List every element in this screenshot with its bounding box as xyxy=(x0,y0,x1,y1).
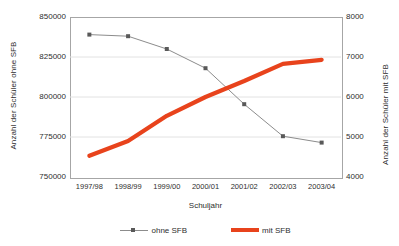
y-axis-left-ticks: 750000775000800000825000850000 xyxy=(16,0,66,246)
legend-item-mit-sfb: mit SFB xyxy=(231,226,290,235)
y-axis-right-tick-label: 5000 xyxy=(346,133,384,141)
x-axis-ticks: 1997/981998/991999/002000/012001/022002/… xyxy=(70,182,341,194)
y-axis-right-ticks: 40005000600070008000 xyxy=(346,0,386,246)
data-point-marker xyxy=(320,141,324,145)
y-axis-right-tick-label: 8000 xyxy=(346,13,384,21)
chart-container: Anzahl der Schüler ohne SFB Anzahl der S… xyxy=(0,0,399,246)
legend-line-icon-orange xyxy=(231,226,259,235)
y-axis-left-tick-label: 775000 xyxy=(20,133,66,141)
y-axis-left-tick-label: 800000 xyxy=(20,93,66,101)
x-axis-tick-label: 1999/00 xyxy=(153,182,180,191)
legend-item-ohne-sfb: ohne SFB xyxy=(120,226,187,235)
plot-svg xyxy=(70,17,341,177)
y-axis-left-tick-label: 850000 xyxy=(20,13,66,21)
legend-line-icon-gray xyxy=(120,226,148,235)
x-axis-tick-label: 2002/03 xyxy=(269,182,296,191)
y-axis-right-tick-label: 6000 xyxy=(346,93,384,101)
x-axis-title: Schuljahr xyxy=(70,201,341,210)
series-line-mit-sfb xyxy=(89,60,321,156)
x-axis-tick-label: 2003/04 xyxy=(308,182,335,191)
data-point-marker xyxy=(165,47,169,51)
y-axis-left-tick-label: 750000 xyxy=(20,173,66,181)
x-axis-tick-label: 1998/99 xyxy=(115,182,142,191)
legend-label: ohne SFB xyxy=(151,226,187,235)
y-axis-right-tick-label: 4000 xyxy=(346,173,384,181)
x-axis-tick-label: 2000/01 xyxy=(192,182,219,191)
series-line-ohne-sfb xyxy=(89,35,321,143)
data-point-marker xyxy=(204,66,208,70)
legend-label: mit SFB xyxy=(262,226,290,235)
y-axis-right-tick-label: 7000 xyxy=(346,53,384,61)
x-axis-tick-label: 2001/02 xyxy=(231,182,258,191)
y-axis-left-tick-label: 825000 xyxy=(20,53,66,61)
data-point-marker xyxy=(126,34,130,38)
data-point-marker xyxy=(87,33,91,37)
x-axis-tick-label: 1997/98 xyxy=(76,182,103,191)
data-point-marker xyxy=(281,134,285,138)
data-point-marker xyxy=(242,102,246,106)
chart-legend: ohne SFB mit SFB xyxy=(70,222,341,238)
